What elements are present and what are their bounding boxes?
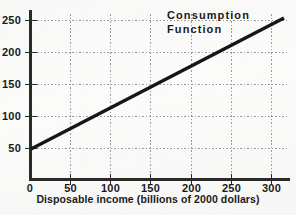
y-tick-label-50: 50 (3, 142, 21, 154)
consumption-function-line (31, 18, 284, 149)
x-axis-title: Disposable income (billions of 2000 doll… (0, 193, 296, 205)
y-tick-label-100: 100 (0, 110, 21, 122)
y-tick-label-250: 250 (0, 14, 21, 26)
y-tick-label-150: 150 (0, 78, 21, 90)
series-annotation: Consumption Function (167, 8, 250, 36)
series-annotation-line-2: Function (167, 22, 250, 36)
y-tick-label-200: 200 (0, 46, 21, 58)
chart-screenshot: 250 200 150 100 50 0 50 100 150 200 250 … (0, 0, 296, 215)
series-annotation-line-1: Consumption (167, 8, 250, 22)
